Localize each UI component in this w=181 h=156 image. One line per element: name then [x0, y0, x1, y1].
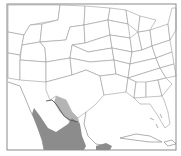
- us-states: [8, 5, 176, 128]
- range-map: [0, 0, 181, 156]
